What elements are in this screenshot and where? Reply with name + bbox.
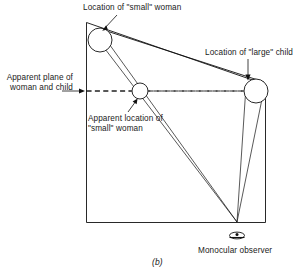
leader-small-woman: [102, 15, 117, 31]
arrowhead-apparent-location: [133, 99, 138, 105]
apparent-small-woman-head-circle: [132, 83, 148, 99]
leader-apparent-location: [128, 99, 138, 112]
label-apparent-plane: Apparent plane of woman and child: [3, 73, 73, 93]
small-woman-head-circle: [88, 28, 112, 52]
ames-room-distorted-perception-diagram: [0, 0, 308, 273]
monocular-eye-icon: [230, 232, 245, 239]
figure-caption: (b): [152, 257, 163, 267]
label-location-small-woman: Location of "small" woman: [83, 3, 181, 13]
sight-lines-large-child: [237, 86, 262, 222]
label-apparent-location-small-woman: Apparent location of "small" woman: [88, 114, 188, 134]
large-child-head-circle: [244, 79, 268, 103]
label-monocular-observer: Monocular observer: [198, 246, 272, 256]
eye-pupil: [236, 233, 239, 236]
label-location-large-child: Location of "large" child: [205, 48, 293, 58]
arrowhead-apparent-plane: [79, 89, 85, 94]
